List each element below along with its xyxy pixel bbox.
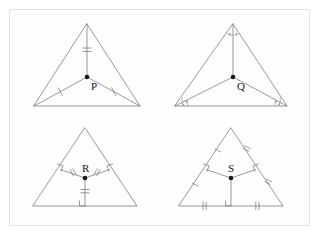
segment-s-to-right-side xyxy=(231,170,256,178)
tick-single-right-p xyxy=(112,88,117,97)
figure-p-svg: P xyxy=(22,14,152,119)
figure-r: R xyxy=(22,120,152,220)
point-q-dot xyxy=(231,75,236,80)
tick-single-left-p xyxy=(58,88,63,97)
point-r-label: R xyxy=(82,162,90,174)
figure-q: Q xyxy=(165,14,300,119)
point-r-dot xyxy=(83,176,88,181)
figure-r-svg: R xyxy=(22,120,152,220)
figure-card: P xyxy=(9,9,310,226)
triangle-outline-q xyxy=(175,24,287,106)
tick-double-right-upper-s xyxy=(243,146,251,152)
point-s-dot xyxy=(229,176,234,181)
point-s-label: S xyxy=(228,162,234,174)
diagram-page: P xyxy=(0,0,319,235)
figure-s: S xyxy=(165,120,300,220)
point-q-label: Q xyxy=(237,80,245,92)
right-angle-base-s xyxy=(226,201,232,207)
figure-p: P xyxy=(22,14,152,119)
segment-q-bottom-left xyxy=(175,77,233,106)
point-p-dot xyxy=(85,75,90,80)
right-angle-base-r xyxy=(80,201,86,207)
figure-q-svg: Q xyxy=(165,14,300,119)
figure-s-svg: S xyxy=(165,120,300,220)
point-p-label: P xyxy=(91,80,97,92)
